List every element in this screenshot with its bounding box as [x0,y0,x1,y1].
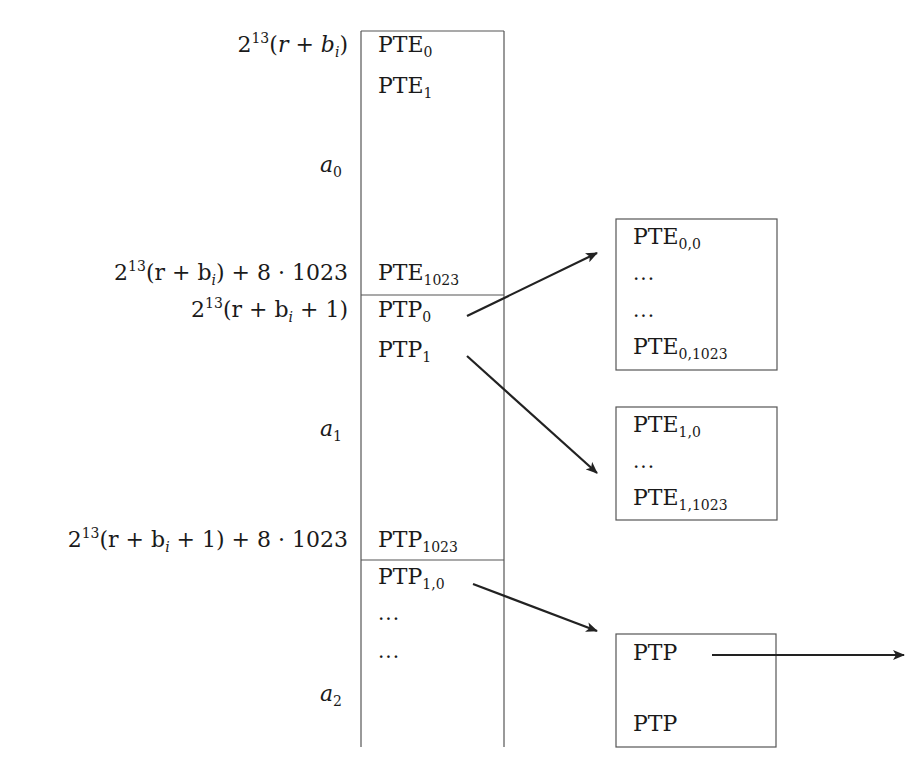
var-b: b [321,32,335,57]
entry-name: PTP [378,337,422,362]
entry-index: 1 [424,85,433,101]
entry-ptp-1023: PTP1023 [378,529,458,551]
address-base: 213(r + bi) [237,34,348,56]
entry-name: PTE [633,334,679,359]
entry-index: 1,0 [679,424,701,440]
address-next-base-end: 213(r + bi + 1) + 8 · 1023 [68,529,348,551]
label-a2: a2 [320,683,342,705]
entry-ellipsis: ... [378,641,400,661]
entry-name: PTP [378,564,422,589]
exponent: 13 [82,525,100,541]
arrow-ptp0-to-table0 [467,253,597,316]
exponent: 13 [205,295,223,311]
var-a: a [320,681,333,706]
entry-name: PTE [633,224,679,249]
expr: (r + b [146,260,212,285]
address-base-end: 213(r + bi) + 8 · 1023 [114,262,348,284]
var-r: r [278,32,289,57]
entry-ptp-1-0: PTP1,0 [378,566,445,588]
entry-index: 1,0 [422,576,444,592]
arrow-ptp1-to-table1 [467,356,597,473]
table1-ellipsis: ... [633,451,655,471]
var-a: a [320,416,333,441]
entry-ptp-1: PTP1 [378,339,431,361]
coef: 2 [191,297,205,322]
entry-index: 0,1023 [679,346,728,362]
exponent: 13 [251,30,269,46]
var-a: a [320,152,333,177]
entry-index: 0 [424,44,433,60]
sub: 1 [333,428,342,444]
table0-entry-first: PTE0,0 [633,226,701,248]
exponent: 13 [128,258,146,274]
table1-entry-last: PTE1,1023 [633,487,728,509]
coef: 2 [237,32,251,57]
entry-pte-1023: PTE1023 [378,262,459,284]
plus: + [288,32,320,57]
ptpbox-entry-first: PTP [633,642,677,664]
sub: 2 [333,693,342,709]
entry-name: PTE [633,485,679,510]
entry-name: PTE [378,260,424,285]
address-next-base: 213(r + bi + 1) [191,299,348,321]
label-a0: a0 [320,154,342,176]
entry-index: 0 [422,309,431,325]
entry-name: PTP [378,297,422,322]
entry-name: PTE [378,32,424,57]
table0-ellipsis: ... [633,300,655,320]
paren: ) [339,32,348,57]
entry-name: PTP [378,527,422,552]
coef: 2 [68,527,82,552]
label-a1: a1 [320,418,342,440]
entry-index: 0,0 [679,236,701,252]
entry-ptp-0: PTP0 [378,299,431,321]
table0-ellipsis: ... [633,263,655,283]
sub: 0 [333,164,342,180]
entry-index: 1,1023 [679,497,728,513]
entry-index: 1023 [424,272,460,288]
expr-tail: + 1) + 8 · 1023 [170,527,348,552]
coef: 2 [114,260,128,285]
entry-ellipsis: ... [378,603,400,623]
table1-entry-first: PTE1,0 [633,414,701,436]
expr-tail: ) + 8 · 1023 [216,260,348,285]
arrow-ptp10-to-ptpbox [473,584,597,631]
expr: (r + b [223,297,289,322]
entry-name: PTE [378,73,424,98]
paren: ( [269,32,278,57]
table0-entry-last: PTE0,1023 [633,336,728,358]
entry-index: 1023 [422,539,458,555]
entry-name: PTE [633,412,679,437]
entry-pte-1: PTE1 [378,75,432,97]
ptpbox-entry-last: PTP [633,713,677,735]
diagram-lines [0,0,920,764]
expr-tail: + 1) [293,297,348,322]
entry-index: 1 [422,349,431,365]
expr: (r + b [100,527,166,552]
entry-pte-0: PTE0 [378,34,432,56]
